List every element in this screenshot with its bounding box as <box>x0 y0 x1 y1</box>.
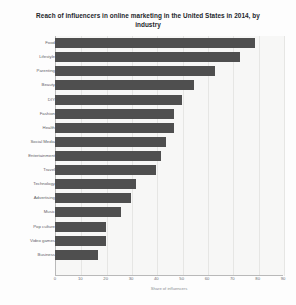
bar[interactable] <box>55 151 161 161</box>
bar-row[interactable] <box>55 52 240 62</box>
gridline <box>259 36 260 276</box>
category-label: Food <box>3 41 55 45</box>
category-label: Video games <box>3 239 55 243</box>
bar[interactable] <box>55 207 121 217</box>
category-label: Lifestyle <box>3 55 55 59</box>
category-label: Fashion <box>3 112 55 116</box>
bar[interactable] <box>55 95 182 105</box>
category-label: Pop culture <box>3 225 55 229</box>
bar[interactable] <box>55 193 131 203</box>
category-label: Beauty <box>3 83 55 87</box>
bar[interactable] <box>55 109 174 119</box>
category-label: Entertainment <box>3 154 55 158</box>
x-tick-label: 40 <box>154 276 159 281</box>
gridline <box>284 36 285 276</box>
bar-row[interactable] <box>55 193 131 203</box>
x-tick-label: 90 <box>281 276 286 281</box>
bar-row[interactable] <box>55 236 106 246</box>
bar[interactable] <box>55 123 174 133</box>
plot-wrapper: FoodLifestyleParentingBeautyDIYFashionHe… <box>0 36 296 276</box>
x-tick-label: 60 <box>205 276 210 281</box>
bar[interactable] <box>55 236 106 246</box>
bar[interactable] <box>55 80 194 90</box>
bar-row[interactable] <box>55 222 106 232</box>
bar[interactable] <box>55 52 240 62</box>
bar-row[interactable] <box>55 109 174 119</box>
x-axis-ticks: 0102030405060708090 <box>55 276 283 286</box>
x-tick-label: 80 <box>255 276 260 281</box>
bar-row[interactable] <box>55 80 194 90</box>
x-tick-label: 70 <box>230 276 235 281</box>
chart-container: Reach of influencers in online marketing… <box>0 0 296 305</box>
category-label: Business <box>3 253 55 257</box>
gridline <box>233 36 234 276</box>
bar-row[interactable] <box>55 207 121 217</box>
category-label: Health <box>3 126 55 130</box>
bar-row[interactable] <box>55 250 98 260</box>
chart-title: Reach of influencers in online marketing… <box>28 11 268 30</box>
category-label: Parenting <box>3 69 55 73</box>
bar-row[interactable] <box>55 66 215 76</box>
category-label: Travel <box>3 168 55 172</box>
category-label: Social Media <box>3 140 55 144</box>
x-axis-title: Share of influencers <box>55 286 283 291</box>
x-tick-label: 20 <box>103 276 108 281</box>
x-tick-label: 0 <box>54 276 56 281</box>
bar[interactable] <box>55 222 106 232</box>
bar[interactable] <box>55 165 156 175</box>
bar[interactable] <box>55 38 255 48</box>
bar-row[interactable] <box>55 151 161 161</box>
bar-row[interactable] <box>55 123 174 133</box>
bar[interactable] <box>55 179 136 189</box>
x-tick-label: 30 <box>129 276 134 281</box>
x-tick-label: 50 <box>179 276 184 281</box>
bar[interactable] <box>55 66 215 76</box>
category-label: DIY <box>3 98 55 102</box>
x-tick-label: 10 <box>78 276 83 281</box>
bar-row[interactable] <box>55 95 182 105</box>
bar-row[interactable] <box>55 38 255 48</box>
category-label: Music <box>3 210 55 214</box>
bar-row[interactable] <box>55 179 136 189</box>
bar[interactable] <box>55 137 166 147</box>
bar-row[interactable] <box>55 137 166 147</box>
category-label: Technology <box>3 182 55 186</box>
bar-row[interactable] <box>55 165 156 175</box>
bar[interactable] <box>55 250 98 260</box>
category-label: Advertising <box>3 196 55 200</box>
